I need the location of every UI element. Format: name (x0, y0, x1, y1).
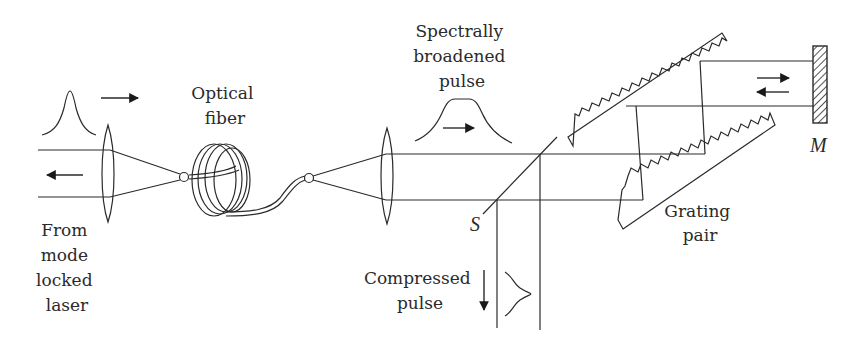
collimating-lens (381, 128, 393, 224)
grating-beam-paths (626, 61, 813, 200)
splitter-label: S (470, 213, 480, 235)
collimated-beam (313, 154, 705, 200)
input-beam (38, 150, 180, 197)
compressed-pulse-icon (505, 272, 531, 316)
beam-splitter (483, 137, 557, 214)
grating-pair-label: Grating pair (664, 201, 735, 245)
fiber-output-coupler (305, 174, 314, 183)
mirror-label: M (809, 134, 828, 156)
pulse-compression-diagram: From mode locked laser Optical fiber Spe… (0, 0, 865, 343)
source-label: From mode locked laser (36, 220, 98, 315)
broadened-pulse-label: Spectrally broadened pulse (413, 21, 511, 91)
end-mirror (813, 46, 827, 123)
broadened-pulse-icon (415, 99, 512, 143)
compressed-pulse-label: Compressed pulse (364, 268, 476, 313)
input-lens (102, 125, 114, 222)
compressed-output-beam (497, 154, 540, 330)
optical-fiber-label: Optical fiber (191, 83, 259, 128)
fiber-input-coupler (180, 173, 189, 182)
optical-fiber-coil (189, 144, 305, 216)
input-pulse-icon (42, 91, 96, 135)
